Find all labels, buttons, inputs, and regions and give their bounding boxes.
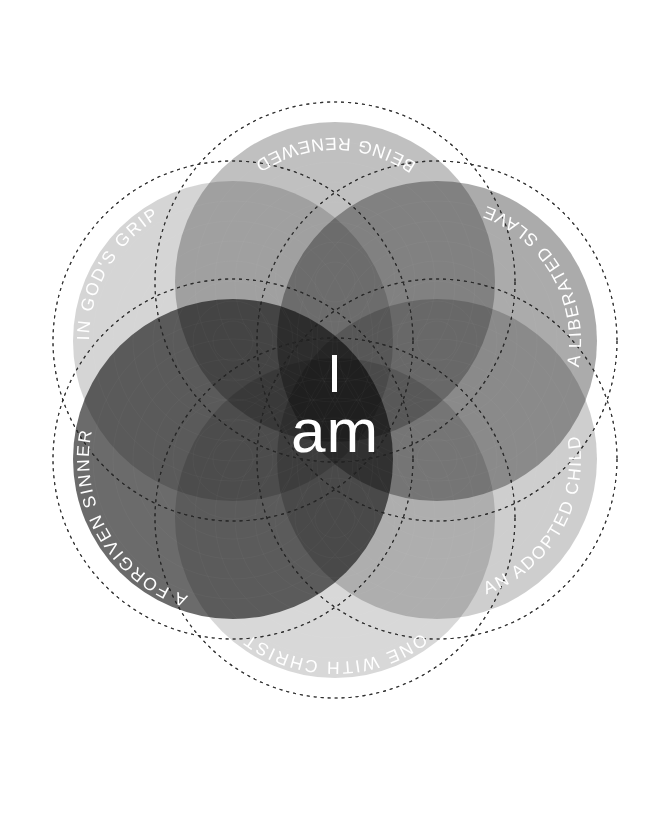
- center-line-1: I: [327, 343, 343, 403]
- venn-canvas: BEING RENEWEDA LIBERATED SLAVEAN ADOPTED…: [0, 0, 670, 813]
- identity-venn-diagram: BEING RENEWEDA LIBERATED SLAVEAN ADOPTED…: [0, 0, 670, 813]
- center-line-2: am: [291, 396, 379, 465]
